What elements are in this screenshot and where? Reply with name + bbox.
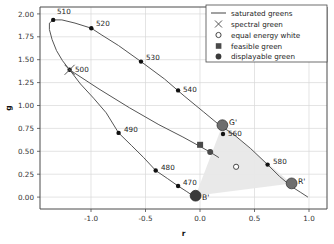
- vertex-label-B: B': [202, 193, 209, 202]
- y-tick-label-1.50: 1.50: [18, 55, 34, 64]
- displayable-green-marker: [207, 149, 213, 155]
- legend-label-equal-energy-white: equal energy white: [231, 31, 301, 40]
- wavelength-dot-490: [116, 131, 120, 135]
- wavelength-label-580: 580: [273, 157, 287, 166]
- wavelength-dot-530: [139, 59, 143, 63]
- y-tick-label-0.75: 0.75: [18, 124, 34, 133]
- chart-legend: saturated greens spectral green equal en…: [206, 5, 327, 62]
- legend-open-circle-icon: [216, 32, 221, 37]
- legend-label-displayable-green: displayable green: [231, 52, 295, 61]
- y-axis-title: g: [4, 105, 13, 110]
- x-tick-label-0.0: 0.0: [194, 214, 206, 223]
- wavelength-dot-560: [221, 132, 225, 136]
- y-tick-label-1.00: 1.00: [18, 101, 34, 110]
- x-tick-label-1.0: 1.0: [303, 214, 315, 223]
- y-tick-label-0.25: 0.25: [18, 170, 34, 179]
- wavelength-label-500: 500: [75, 65, 89, 74]
- chart-canvas: 510 520 530 540 500 490 480 470 560 580 …: [0, 0, 334, 244]
- vertex-marker-G: [217, 120, 228, 131]
- legend-label-saturated-greens: saturated greens: [231, 9, 293, 18]
- wavelength-dot-520: [89, 26, 93, 30]
- y-tick-label-1.25: 1.25: [18, 78, 34, 87]
- wavelength-label-530: 530: [146, 53, 160, 62]
- x-tick-label--1.0: -1.0: [84, 214, 98, 223]
- wavelength-dot-580: [265, 162, 269, 166]
- wavelength-label-520: 520: [96, 19, 110, 28]
- wavelength-label-540: 540: [183, 85, 197, 94]
- x-tick-label-0.5: 0.5: [249, 214, 260, 223]
- wavelength-dot-470: [176, 184, 180, 188]
- legend-filled-circle-icon: [216, 54, 222, 60]
- wavelength-dot-540: [176, 88, 180, 92]
- y-tick-label-0.50: 0.50: [18, 147, 34, 156]
- legend-square-icon: [216, 43, 222, 49]
- feasible-green-square-marker: [197, 142, 203, 148]
- legend-label-spectral-green: spectral green: [231, 20, 283, 29]
- vertex-label-R: R': [298, 177, 305, 186]
- x-axis-title: r: [182, 229, 186, 238]
- wavelength-label-480: 480: [161, 163, 175, 172]
- equal-energy-white-marker: [234, 164, 239, 169]
- y-tick-label-0.00: 0.00: [18, 193, 34, 202]
- legend-label-feasible-green: feasible green: [231, 42, 282, 51]
- wavelength-dot-510: [51, 18, 55, 22]
- vertex-label-G: G': [229, 118, 237, 127]
- vertex-marker-B: [190, 190, 201, 201]
- wavelength-label-490: 490: [124, 125, 138, 134]
- wavelength-label-470: 470: [183, 178, 197, 187]
- wavelength-label-560: 560: [228, 129, 242, 138]
- chromaticity-chart-figure: 510 520 530 540 500 490 480 470 560 580 …: [0, 0, 334, 244]
- wavelength-dot-480: [154, 168, 158, 172]
- wavelength-label-510: 510: [57, 7, 71, 16]
- y-tick-label-1.75: 1.75: [18, 32, 34, 41]
- y-tick-label-2.00: 2.00: [18, 10, 34, 19]
- vertex-marker-R: [286, 178, 297, 189]
- x-tick-label--0.5: -0.5: [138, 214, 152, 223]
